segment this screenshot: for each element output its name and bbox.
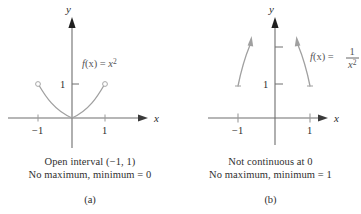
x-tick-label-neg1-a: −1 (32, 125, 43, 136)
caption-a-line2: No maximum, minimum = 0 (0, 169, 180, 182)
y-axis-a (68, 17, 75, 148)
y-tick-1-b: 1 (263, 79, 283, 90)
plot-b: x y −1 1 1 (180, 0, 361, 150)
plot-a: x y −1 1 1 (0, 0, 180, 150)
caption-a: Open interval (−1, 1) No maximum, minimu… (0, 156, 180, 181)
x-tick-label-neg1-b: −1 (232, 125, 243, 136)
panel-letter-b: (b) (180, 194, 361, 205)
plot-a-svg: x y −1 1 1 (0, 0, 180, 150)
caption-b-line1: Not continuous at 0 (180, 156, 361, 169)
y-tick-label-1-a: 1 (60, 79, 65, 90)
x-tick-label-pos1-a: 1 (102, 125, 107, 136)
x-tick-label-pos1-b: 1 (307, 125, 312, 136)
x-tick-pos1-b: 1 (307, 114, 312, 137)
x-tick-neg1-b: −1 (232, 114, 243, 137)
function-label-b-denominator: x2 (347, 58, 357, 70)
open-endpoint-right-a (103, 82, 108, 87)
function-label-a-arg: (x) (85, 58, 98, 70)
x-axis-label-b: x (333, 112, 339, 124)
function-label-b: f(x) = 1 x2 (310, 46, 359, 70)
function-label-b-lhs: f(x) = (310, 51, 334, 63)
function-label-b-numerator: 1 (349, 46, 354, 57)
panel-a: x y −1 1 1 (0, 0, 180, 214)
open-endpoint-left-a (36, 82, 41, 87)
caption-b-line2: No maximum, minimum = 1 (180, 169, 361, 182)
function-label-a: f(x) = x2 (82, 57, 117, 71)
caption-a-line1: Open interval (−1, 1) (0, 156, 180, 169)
curve-left-branch-b (235, 36, 253, 86)
y-tick-1-a: 1 (60, 79, 79, 90)
function-label-a-exp: 2 (113, 57, 117, 66)
caption-b: Not continuous at 0 No maximum, minimum … (180, 156, 361, 181)
y-tick-label-1-b: 1 (263, 79, 268, 90)
panel-letter-a: (a) (0, 194, 180, 205)
figure-container: x y −1 1 1 (0, 0, 361, 214)
function-label-a-eq: = (97, 58, 108, 69)
y-axis-label-b: y (268, 3, 274, 15)
plot-b-svg: x y −1 1 1 (180, 0, 361, 150)
y-axis-label-a: y (65, 3, 71, 15)
y-axis-b (271, 17, 278, 145)
x-axis-label-a: x (153, 112, 159, 124)
function-label-b-arg: (x) (313, 51, 326, 63)
function-label-b-eq: = (325, 51, 334, 62)
panel-b: x y −1 1 1 (180, 0, 361, 214)
function-label-b-den-exp: 2 (353, 58, 357, 67)
